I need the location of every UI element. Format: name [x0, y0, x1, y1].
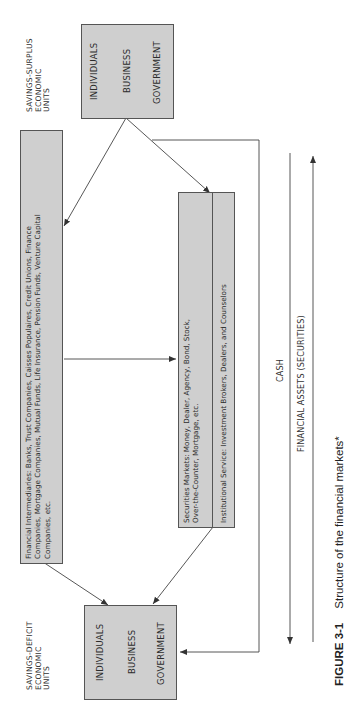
deficit-government: GOVERNMENT — [156, 622, 166, 685]
institutional-service-text: Institutional Service: Investment Broker… — [219, 284, 228, 523]
securities-markets-text: Securities Markets: Money, Dealer, Agenc… — [182, 319, 201, 523]
figure-caption: FIGURE 3-1Structure of the financial mar… — [333, 436, 345, 686]
text-line: Financial Intermediaries: Banks, Trust C… — [24, 214, 33, 559]
deficit-business: BUSINESS — [127, 630, 137, 674]
deficit-individuals: INDIVIDUALS — [95, 624, 105, 681]
financial-assets-label: FINANCIAL ASSETS (SECURITIES) — [298, 315, 307, 452]
arrow-securities-to-deficit — [153, 527, 213, 604]
cash-label: CASH — [277, 359, 286, 382]
financial-intermediaries-box: Financial Intermediaries: Banks, Trust C… — [20, 130, 63, 564]
text-line: Over-the-Counter, Mortgage, etc. — [191, 319, 200, 523]
deficit-units-label: SAVINGS-DEFICIT ECONOMIC UNITS — [26, 621, 52, 690]
surplus-units-box: INDIVIDUALS BUSINESS GOVERNMENT — [81, 24, 174, 119]
institutional-service-box: Institutional Service: Investment Broker… — [212, 192, 235, 528]
arrow-surplus-to-intermediaries — [64, 118, 126, 226]
figure-number: FIGURE 3-1 — [333, 623, 345, 686]
label-line: UNITS — [43, 38, 52, 112]
surplus-business: BUSINESS — [122, 49, 132, 93]
surplus-units-label: SAVINGS-SURPLUS ECONOMIC UNITS — [26, 38, 52, 112]
text-line: Securities Markets: Money, Dealer, Agenc… — [182, 319, 191, 523]
financial-intermediaries-text: Financial Intermediaries: Banks, Trust C… — [24, 214, 52, 559]
deficit-units-box: INDIVIDUALS BUSINESS GOVERNMENT — [84, 605, 177, 700]
label-line: UNITS — [43, 621, 52, 690]
securities-markets-box: Securities Markets: Money, Dealer, Agenc… — [178, 192, 213, 528]
text-line: Companies, Mortgage Companies, Mutual Fu… — [33, 214, 42, 559]
surplus-individuals: INDIVIDUALS — [89, 43, 99, 100]
arrow-surplus-to-securities — [126, 118, 210, 193]
figure-title: Structure of the financial markets* — [333, 436, 345, 609]
surplus-government: GOVERNMENT — [152, 41, 162, 104]
text-line: Companies, etc. — [43, 214, 52, 559]
arrow-intermediaries-to-deficit — [43, 562, 108, 605]
